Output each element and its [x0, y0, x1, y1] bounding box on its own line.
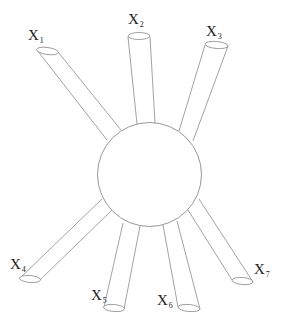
diagram-canvas: X1 X2 X3 X4 X5 X6 X7 — [0, 0, 281, 329]
tube-end-cap — [205, 41, 229, 50]
tube-edge — [150, 37, 155, 123]
tube-edge — [124, 226, 140, 309]
tube-edge — [188, 210, 232, 280]
tube-edge — [20, 199, 102, 278]
tube-x7 — [188, 199, 253, 285]
tube-edge — [104, 223, 123, 307]
tube-x1 — [36, 46, 121, 140]
hub-spoke-diagram — [0, 0, 281, 329]
tube-x4 — [19, 199, 112, 283]
tube-edge — [193, 46, 228, 141]
label-x6: X6 — [157, 293, 173, 310]
label-x1: X1 — [28, 28, 44, 45]
tube-edge — [177, 221, 200, 309]
hub-circle — [98, 123, 202, 227]
tube-edge — [58, 52, 121, 130]
tube-end-cap — [128, 33, 150, 40]
tube-end-cap — [36, 46, 59, 56]
label-x5: X5 — [91, 288, 107, 305]
tube-x2 — [128, 33, 155, 125]
tube-x3 — [179, 41, 228, 141]
label-x4: X4 — [10, 257, 26, 274]
tube-edge — [40, 210, 112, 280]
tube-end-cap — [19, 275, 41, 284]
label-x2: X2 — [128, 12, 144, 29]
tube-edge — [37, 50, 107, 140]
label-x3: X3 — [206, 24, 222, 41]
tube-end-cap — [178, 304, 201, 313]
tube-edge — [128, 37, 137, 124]
label-x7: X7 — [254, 262, 270, 279]
tube-x5 — [103, 223, 140, 312]
